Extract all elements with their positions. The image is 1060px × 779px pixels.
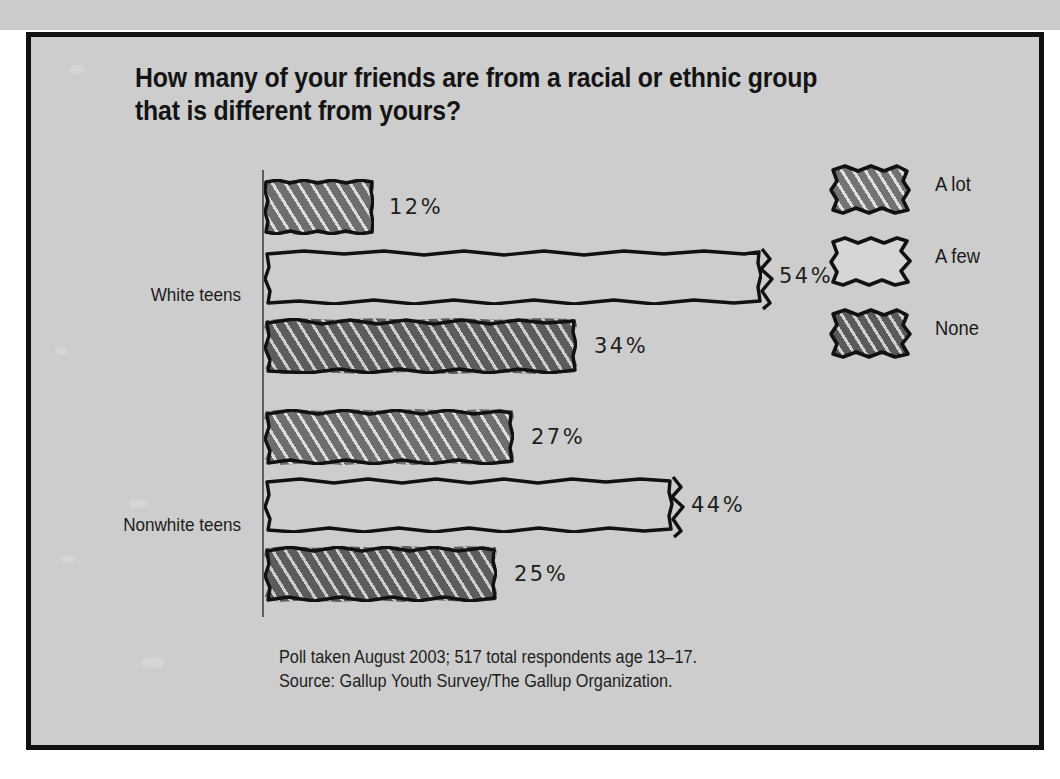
legend-swatch-none	[831, 311, 909, 357]
legend: A lot A few	[831, 165, 1031, 381]
bar-fill	[264, 409, 514, 465]
category-label-nonwhite-teens: Nonwhite teens	[61, 514, 241, 536]
bar-fill	[264, 179, 374, 235]
chart-figure: How many of your friends are from a raci…	[26, 32, 1044, 750]
bar-nonwhite-a-lot	[264, 409, 514, 465]
legend-swatch-outline	[827, 307, 913, 361]
value-label-white-none: 34%	[594, 334, 648, 358]
legend-label-none: None	[935, 317, 979, 340]
page: How many of your friends are from a raci…	[0, 0, 1060, 779]
legend-swatch-a-few	[831, 239, 909, 285]
footnote-line-1: Poll taken August 2003; 517 total respon…	[279, 645, 697, 669]
legend-label-a-lot: A lot	[935, 173, 971, 196]
legend-item-a-lot: A lot	[831, 165, 1031, 237]
legend-label-a-few: A few	[935, 245, 980, 268]
bar-fill	[264, 477, 674, 533]
legend-item-a-few: A few	[831, 237, 1031, 309]
legend-item-none: None	[831, 309, 1031, 381]
footnote-line-2: Source: Gallup Youth Survey/The Gallup O…	[279, 669, 697, 693]
bar-fill	[264, 249, 762, 305]
value-label-nonwhite-a-few: 44%	[691, 493, 745, 517]
bar-white-a-few	[264, 249, 762, 305]
plot-area: White teens Nonwhite teens 12%	[31, 37, 1039, 745]
page-top-band	[0, 0, 1060, 30]
legend-swatch-outline	[827, 235, 913, 289]
bracket-tick-white-a-few	[756, 245, 782, 311]
legend-swatch-outline	[827, 163, 913, 217]
value-label-nonwhite-none: 25%	[514, 562, 568, 586]
bar-fill	[264, 546, 497, 602]
footnote: Poll taken August 2003; 517 total respon…	[279, 645, 697, 693]
bar-nonwhite-none	[264, 546, 497, 602]
value-label-nonwhite-a-lot: 27%	[531, 425, 585, 449]
page-bottom-gutter	[0, 751, 1060, 779]
value-label-white-a-few: 54%	[779, 264, 833, 288]
legend-swatch-a-lot	[831, 167, 909, 213]
bar-fill	[264, 318, 577, 374]
page-left-gutter	[0, 30, 26, 779]
bar-white-none	[264, 318, 577, 374]
category-label-white-teens: White teens	[61, 284, 241, 306]
bracket-tick-nonwhite-a-few	[667, 473, 693, 539]
bar-white-a-lot	[264, 179, 374, 235]
value-label-white-a-lot: 12%	[389, 195, 443, 219]
bar-nonwhite-a-few	[264, 477, 674, 533]
